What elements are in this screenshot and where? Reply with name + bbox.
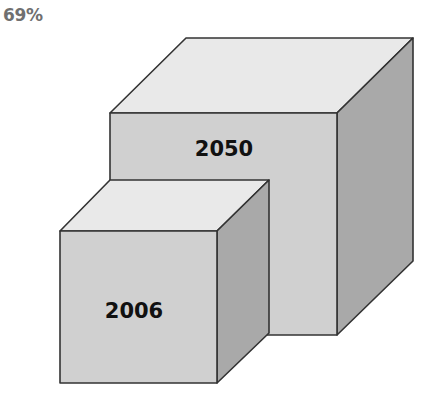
large-cube-label: 2050 [195, 137, 253, 161]
small-cube-label: 2006 [105, 299, 163, 323]
cube-comparison-diagram: 69% 2050 2006 [0, 0, 436, 410]
small-cube [60, 180, 269, 383]
cubes-graphic: 2050 2006 [0, 0, 436, 410]
